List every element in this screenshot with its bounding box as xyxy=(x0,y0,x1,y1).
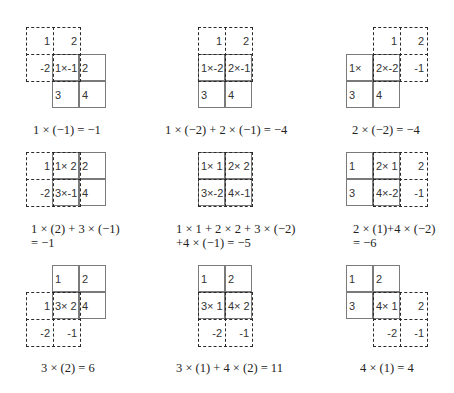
input-cell: 2×-2 xyxy=(373,54,400,81)
input-cell: 1×-1 xyxy=(52,54,79,81)
kernel-divider xyxy=(373,179,428,180)
kernel-divider xyxy=(26,319,81,320)
kernel-cell: 1 xyxy=(26,292,53,319)
equation-caption: 3 × (1) + 4 × (2) = 11 xyxy=(176,361,283,375)
input-cell: 3 xyxy=(346,179,373,206)
kernel-cell: 1 xyxy=(26,152,53,179)
input-cell: 2 xyxy=(373,265,400,292)
equation-caption: 1 × (2) + 3 × (−1) xyxy=(31,222,120,236)
input-cell: 4× 2 xyxy=(225,292,252,319)
input-cell: 2 xyxy=(79,54,106,81)
equation-caption: = −6 xyxy=(353,236,376,250)
kernel-cell: -2 xyxy=(198,319,225,346)
kernel-divider xyxy=(198,319,253,320)
kernel-divider xyxy=(26,54,81,55)
kernel-cell: -2 xyxy=(373,319,400,346)
equation-caption: = −1 xyxy=(31,236,54,250)
kernel-cell: -2 xyxy=(26,319,53,346)
input-cell: 3×-2 xyxy=(198,179,225,206)
kernel-cell: 2 xyxy=(400,292,427,319)
input-cell: 4 xyxy=(79,292,106,319)
input-cell: 2 xyxy=(79,265,106,292)
input-cell: 4×-1 xyxy=(225,179,252,206)
input-cell: 2 xyxy=(79,152,106,179)
kernel-cell: -1 xyxy=(400,179,427,206)
equation-caption: +4 × (−1) = −5 xyxy=(176,236,251,250)
input-cell: 1×-2 xyxy=(198,54,225,81)
input-cell: 1 xyxy=(346,265,373,292)
equation-caption: 3 × (2) = 6 xyxy=(41,361,95,375)
input-cell: 1× 1 xyxy=(198,152,225,179)
input-cell: 3 xyxy=(52,81,79,108)
kernel-divider xyxy=(26,179,81,180)
kernel-cell: 2 xyxy=(400,27,427,54)
kernel-cell: 1 xyxy=(26,27,53,54)
kernel-cell: -1 xyxy=(53,319,80,346)
kernel-cell: -2 xyxy=(26,179,53,206)
kernel-cell: 1 xyxy=(198,27,225,54)
input-cell: 4 xyxy=(79,81,106,108)
equation-caption: 1 × 1 + 2 × 2 + 3 × (−2) xyxy=(176,222,295,236)
kernel-divider xyxy=(198,179,253,180)
kernel-divider xyxy=(373,54,428,55)
input-cell: 1× xyxy=(346,54,373,81)
kernel-cell: 2 xyxy=(400,152,427,179)
input-cell: 2× 1 xyxy=(373,152,400,179)
kernel-divider xyxy=(198,54,253,55)
input-cell: 3 xyxy=(198,81,225,108)
input-cell: 1 xyxy=(346,152,373,179)
input-cell: 3× 1 xyxy=(198,292,225,319)
equation-caption: 4 × (1) = 4 xyxy=(360,361,414,375)
equation-caption: 2 × (1)+4 × (−2) xyxy=(353,222,435,236)
input-cell: 2 xyxy=(225,265,252,292)
kernel-cell: 2 xyxy=(53,27,80,54)
input-cell: 3× 2 xyxy=(52,292,79,319)
kernel-cell: -1 xyxy=(400,319,427,346)
input-cell: 3×-1 xyxy=(52,179,79,206)
kernel-cell: -1 xyxy=(225,319,252,346)
kernel-cell: 2 xyxy=(225,27,252,54)
input-cell: 1 xyxy=(52,265,79,292)
kernel-divider xyxy=(373,319,428,320)
equation-caption: 1 × (−1) = −1 xyxy=(33,123,101,137)
kernel-cell: -2 xyxy=(26,54,53,81)
input-cell: 4×-2 xyxy=(373,179,400,206)
equation-caption: 2 × (−2) = −4 xyxy=(352,123,420,137)
equation-caption: 1 × (−2) + 2 × (−1) = −4 xyxy=(165,123,287,137)
input-cell: 1 xyxy=(198,265,225,292)
input-cell: 1× 2 xyxy=(52,152,79,179)
input-cell: 2×-1 xyxy=(225,54,252,81)
kernel-cell: 1 xyxy=(373,27,400,54)
input-cell: 3 xyxy=(346,292,373,319)
input-cell: 2× 2 xyxy=(225,152,252,179)
input-cell: 4 xyxy=(225,81,252,108)
input-cell: 4 xyxy=(373,81,400,108)
input-cell: 4 xyxy=(79,179,106,206)
input-cell: 3 xyxy=(346,81,373,108)
kernel-cell: -1 xyxy=(400,54,427,81)
input-cell: 4× 1 xyxy=(373,292,400,319)
